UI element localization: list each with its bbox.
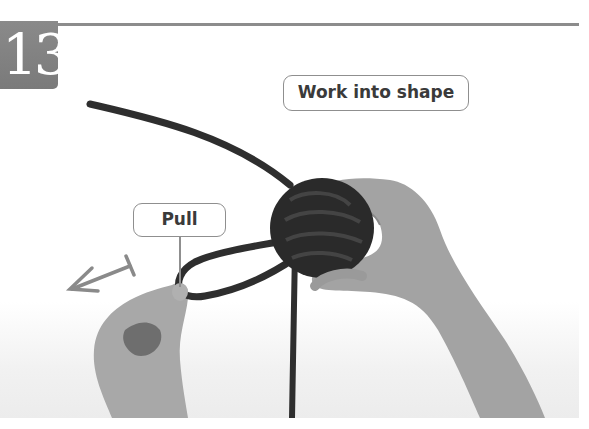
rope-hanging — [292, 250, 295, 418]
pull-leader-line — [179, 237, 181, 287]
callout-pull: Pull — [133, 203, 226, 237]
callout-work-into-shape: Work into shape — [283, 75, 469, 111]
step-number-badge: 13 — [0, 21, 58, 89]
header-rule — [58, 23, 579, 26]
pull-arrow-icon — [70, 256, 134, 291]
rope-tail — [90, 104, 290, 185]
